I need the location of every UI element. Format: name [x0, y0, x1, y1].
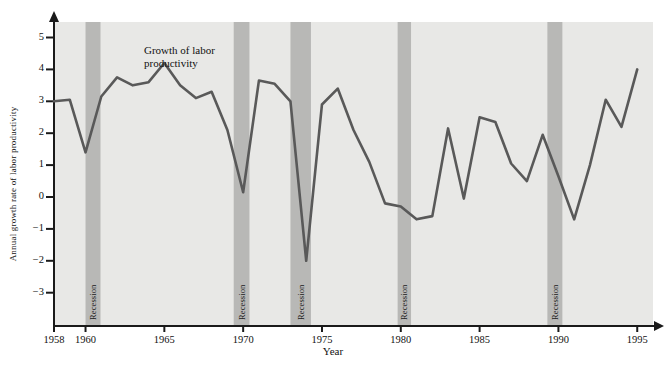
recession-band-2 — [234, 22, 250, 326]
recession-band-4 — [398, 22, 411, 326]
recession-label-4: Recession — [399, 285, 409, 320]
recession-band-3 — [290, 22, 310, 326]
y-tick-label-3: 3 — [22, 94, 44, 105]
y-axis-title-text: Annual growth rate of labor productivity — [8, 106, 18, 261]
recession-label-5: Recession — [550, 285, 560, 320]
series-annotation: Growth of labor productivity — [144, 44, 215, 70]
annotation-line-2: productivity — [144, 57, 215, 70]
x-axis-arrow-icon — [654, 321, 664, 331]
recession-label-2: Recession — [237, 285, 247, 320]
x-tick-label-1960: 1960 — [64, 334, 108, 345]
y-axis-arrow-icon — [49, 11, 59, 22]
y-tick-label-0: 0 — [22, 190, 44, 201]
annotation-line-1: Growth of labor — [144, 44, 215, 57]
y-axis-title: Annual growth rate of labor productivity — [2, 0, 24, 367]
x-tick-label-1995: 1995 — [615, 334, 659, 345]
x-tick-label-1980: 1980 — [379, 334, 423, 345]
chart-figure: Annual growth rate of labor productivity… — [0, 0, 666, 367]
y-tick-label--3: −3 — [22, 286, 44, 297]
recession-label-3: Recession — [296, 285, 306, 320]
x-tick-label-1965: 1965 — [142, 334, 186, 345]
x-tick-label-1985: 1985 — [458, 334, 502, 345]
y-tick-label--1: −1 — [22, 222, 44, 233]
recession-label-1: Recession — [88, 285, 98, 320]
y-tick-label-2: 2 — [22, 126, 44, 137]
y-tick-label-4: 4 — [22, 62, 44, 73]
x-tick-label-1990: 1990 — [536, 334, 580, 345]
recession-band-5 — [547, 22, 562, 326]
chart-canvas — [0, 0, 666, 367]
recession-band-1 — [86, 22, 101, 326]
x-tick-label-1975: 1975 — [300, 334, 344, 345]
y-tick-label--2: −2 — [22, 254, 44, 265]
y-tick-label-1: 1 — [22, 158, 44, 169]
x-tick-label-1970: 1970 — [221, 334, 265, 345]
x-axis-title: Year — [0, 345, 666, 357]
y-tick-label-5: 5 — [22, 31, 44, 42]
